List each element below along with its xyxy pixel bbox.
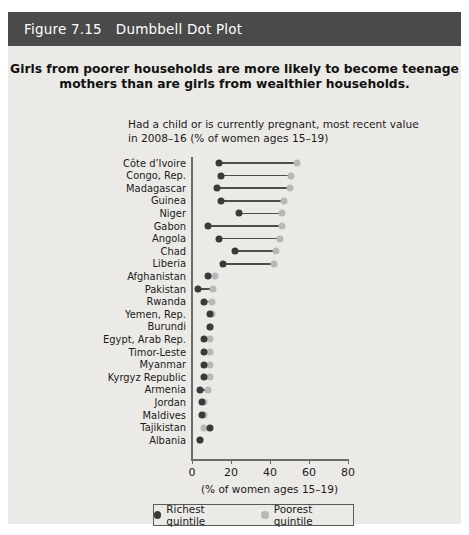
dumbbell-connector — [221, 200, 283, 202]
x-tick — [348, 459, 349, 464]
dumbbell-connector — [235, 250, 276, 252]
dumbbell-connector — [217, 187, 289, 189]
richest-quintile-dot — [216, 160, 223, 167]
legend-item: Poorest quintile — [261, 503, 353, 527]
richest-quintile-dot — [200, 298, 207, 305]
category-label: Rwanda — [16, 296, 186, 307]
category-label: Kyrgyz Republic — [16, 372, 186, 383]
richest-quintile-dot — [200, 336, 207, 343]
poorest-quintile-dot — [278, 210, 285, 217]
richest-quintile-dot — [198, 412, 205, 419]
category-label: Jordan — [16, 397, 186, 408]
richest-quintile-dot — [200, 349, 207, 356]
x-tick-label: 20 — [224, 466, 238, 479]
richest-quintile-dot — [204, 223, 211, 230]
category-label: Niger — [16, 208, 186, 219]
category-label: Maldives — [16, 410, 186, 421]
category-label: Egypt, Arab Rep. — [16, 334, 186, 345]
figure-card: Figure 7.15 Dumbbell Dot Plot Girls from… — [8, 12, 461, 524]
legend-label: Poorest quintile — [274, 503, 353, 527]
poorest-quintile-dot — [294, 160, 301, 167]
category-label: Myanmar — [16, 359, 186, 370]
poorest-quintile-dot — [210, 286, 217, 293]
richest-quintile-dot — [206, 323, 213, 330]
dark-dot-icon — [154, 511, 161, 519]
dumbbell-connector — [219, 238, 279, 240]
richest-quintile-dot — [196, 437, 203, 444]
category-label: Côte d’Ivoire — [16, 158, 186, 169]
x-tick-label: 60 — [302, 466, 316, 479]
richest-quintile-dot — [196, 386, 203, 393]
category-label: Gabon — [16, 221, 186, 232]
richest-quintile-dot — [220, 260, 227, 267]
category-label: Armenia — [16, 384, 186, 395]
x-tick-label: 40 — [263, 466, 277, 479]
x-tick-label: 0 — [189, 466, 196, 479]
richest-quintile-dot — [206, 311, 213, 318]
poorest-quintile-dot — [272, 248, 279, 255]
x-tick — [192, 459, 193, 464]
category-label: Yemen, Rep. — [16, 309, 186, 320]
richest-quintile-dot — [218, 172, 225, 179]
legend: Richest quintilePoorest quintile — [153, 504, 354, 526]
x-tick — [270, 459, 271, 464]
x-tick — [231, 459, 232, 464]
category-label: Congo, Rep. — [16, 170, 186, 181]
category-label: Albania — [16, 435, 186, 446]
figure-number: Figure 7.15 — [24, 21, 102, 37]
dumbbell-connector — [239, 213, 282, 215]
poorest-quintile-dot — [212, 273, 219, 280]
poorest-quintile-dot — [270, 260, 277, 267]
category-label: Chad — [16, 246, 186, 257]
category-label: Madagascar — [16, 183, 186, 194]
category-label: Angola — [16, 233, 186, 244]
richest-quintile-dot — [198, 399, 205, 406]
category-label: Liberia — [16, 258, 186, 269]
richest-quintile-dot — [218, 197, 225, 204]
light-dot-icon — [261, 511, 268, 519]
x-tick-label: 80 — [341, 466, 355, 479]
richest-quintile-dot — [206, 424, 213, 431]
richest-quintile-dot — [200, 361, 207, 368]
poorest-quintile-dot — [278, 223, 285, 230]
dumbbell-connector — [221, 175, 291, 177]
y-axis-line — [191, 157, 193, 459]
richest-quintile-dot — [214, 185, 221, 192]
figure-header: Figure 7.15 Dumbbell Dot Plot — [8, 12, 461, 46]
category-label: Guinea — [16, 195, 186, 206]
poorest-quintile-dot — [280, 197, 287, 204]
dumbbell-connector — [219, 162, 297, 164]
poorest-quintile-dot — [286, 185, 293, 192]
dumbbell-connector — [208, 225, 282, 227]
poorest-quintile-dot — [276, 235, 283, 242]
poorest-quintile-dot — [208, 298, 215, 305]
x-axis-title: (% of women ages 15–19) — [191, 483, 348, 495]
x-tick — [309, 459, 310, 464]
category-labels: Côte d’IvoireCongo, Rep.MadagascarGuinea… — [8, 46, 186, 524]
richest-quintile-dot — [200, 374, 207, 381]
poorest-quintile-dot — [288, 172, 295, 179]
richest-quintile-dot — [216, 235, 223, 242]
figure-header-title: Dumbbell Dot Plot — [116, 21, 242, 37]
richest-quintile-dot — [235, 210, 242, 217]
dumbbell-connector — [223, 263, 274, 265]
category-label: Timor-Leste — [16, 347, 186, 358]
richest-quintile-dot — [204, 273, 211, 280]
legend-item: Richest quintile — [154, 503, 245, 527]
chart-body: Girls from poorer households are more li… — [8, 46, 461, 524]
richest-quintile-dot — [194, 286, 201, 293]
richest-quintile-dot — [231, 248, 238, 255]
category-label: Tajikistan — [16, 422, 186, 433]
category-label: Pakistan — [16, 284, 186, 295]
category-label: Burundi — [16, 321, 186, 332]
poorest-quintile-dot — [204, 386, 211, 393]
plot-area: Côte d’IvoireCongo, Rep.MadagascarGuinea… — [8, 46, 461, 524]
legend-label: Richest quintile — [166, 503, 245, 527]
category-label: Afghanistan — [16, 271, 186, 282]
